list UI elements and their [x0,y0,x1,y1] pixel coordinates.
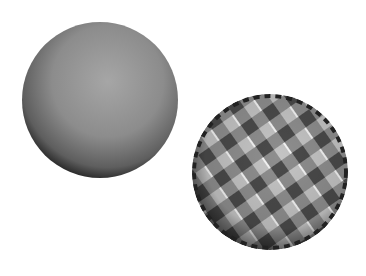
checkered-sphere [192,94,348,250]
plain-sphere [22,22,178,178]
scene-canvas [0,0,366,276]
